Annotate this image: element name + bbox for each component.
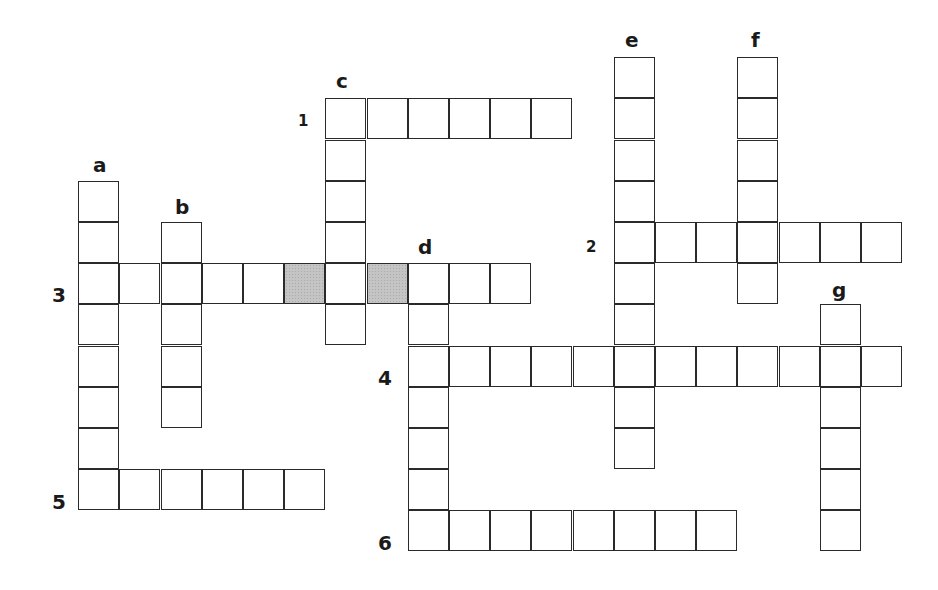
crossword-cell[interactable]	[573, 346, 614, 387]
crossword-cell[interactable]	[655, 346, 696, 387]
crossword-cell[interactable]	[820, 469, 861, 510]
down-clue-label: c	[336, 71, 348, 91]
crossword-cell[interactable]	[325, 140, 366, 181]
down-clue-label: g	[832, 280, 846, 300]
crossword-grid: 123456abcdefg	[0, 0, 938, 590]
across-clue-label: 1	[298, 114, 308, 129]
crossword-cell[interactable]	[531, 510, 572, 551]
crossword-cell[interactable]	[531, 98, 572, 139]
crossword-cell[interactable]	[284, 469, 325, 510]
crossword-cell[interactable]	[614, 140, 655, 181]
down-clue-label: b	[175, 197, 189, 217]
crossword-cell[interactable]	[614, 181, 655, 222]
crossword-cell[interactable]	[449, 98, 490, 139]
crossword-cell[interactable]	[202, 263, 243, 304]
crossword-cell[interactable]	[820, 346, 861, 387]
across-clue-label: 6	[378, 533, 392, 553]
crossword-cell[interactable]	[325, 304, 366, 345]
crossword-cell[interactable]	[449, 510, 490, 551]
crossword-cell[interactable]	[737, 263, 778, 304]
crossword-cell[interactable]	[161, 304, 202, 345]
crossword-cell[interactable]	[161, 263, 202, 304]
down-clue-label: d	[418, 237, 432, 257]
crossword-cell[interactable]	[820, 428, 861, 469]
crossword-cell[interactable]	[408, 387, 449, 428]
crossword-cell[interactable]	[449, 263, 490, 304]
shaded-cell[interactable]	[284, 263, 325, 304]
crossword-cell[interactable]	[408, 304, 449, 345]
shaded-cell[interactable]	[367, 263, 408, 304]
crossword-cell[interactable]	[737, 98, 778, 139]
crossword-cell[interactable]	[614, 222, 655, 263]
crossword-cell[interactable]	[820, 222, 861, 263]
crossword-cell[interactable]	[614, 387, 655, 428]
crossword-cell[interactable]	[408, 346, 449, 387]
crossword-cell[interactable]	[408, 98, 449, 139]
crossword-cell[interactable]	[614, 98, 655, 139]
crossword-cell[interactable]	[325, 222, 366, 263]
crossword-cell[interactable]	[861, 222, 902, 263]
crossword-cell[interactable]	[243, 469, 284, 510]
crossword-cell[interactable]	[325, 263, 366, 304]
crossword-cell[interactable]	[614, 263, 655, 304]
crossword-cell[interactable]	[119, 469, 160, 510]
crossword-cell[interactable]	[78, 428, 119, 469]
down-clue-label: f	[751, 30, 760, 50]
crossword-cell[interactable]	[696, 222, 737, 263]
across-clue-label: 3	[52, 285, 66, 305]
crossword-cell[interactable]	[490, 263, 531, 304]
crossword-cell[interactable]	[202, 469, 243, 510]
crossword-cell[interactable]	[325, 98, 366, 139]
crossword-cell[interactable]	[408, 469, 449, 510]
crossword-cell[interactable]	[820, 304, 861, 345]
across-clue-label: 5	[52, 492, 66, 512]
crossword-cell[interactable]	[614, 346, 655, 387]
crossword-cell[interactable]	[820, 387, 861, 428]
crossword-cell[interactable]	[614, 57, 655, 98]
crossword-cell[interactable]	[779, 222, 820, 263]
crossword-cell[interactable]	[161, 387, 202, 428]
crossword-cell[interactable]	[449, 346, 490, 387]
down-clue-label: e	[625, 30, 639, 50]
crossword-cell[interactable]	[737, 140, 778, 181]
crossword-cell[interactable]	[737, 346, 778, 387]
crossword-cell[interactable]	[367, 98, 408, 139]
crossword-cell[interactable]	[614, 428, 655, 469]
across-clue-label: 4	[378, 368, 392, 388]
crossword-cell[interactable]	[779, 346, 820, 387]
crossword-cell[interactable]	[78, 181, 119, 222]
crossword-cell[interactable]	[78, 222, 119, 263]
crossword-cell[interactable]	[696, 346, 737, 387]
crossword-cell[interactable]	[161, 222, 202, 263]
crossword-cell[interactable]	[78, 469, 119, 510]
crossword-cell[interactable]	[737, 181, 778, 222]
crossword-cell[interactable]	[243, 263, 284, 304]
crossword-cell[interactable]	[408, 263, 449, 304]
down-clue-label: a	[93, 155, 107, 175]
crossword-cell[interactable]	[325, 181, 366, 222]
crossword-cell[interactable]	[161, 469, 202, 510]
crossword-cell[interactable]	[119, 263, 160, 304]
crossword-cell[interactable]	[78, 346, 119, 387]
crossword-cell[interactable]	[861, 346, 902, 387]
crossword-cell[interactable]	[614, 510, 655, 551]
crossword-cell[interactable]	[655, 510, 696, 551]
crossword-cell[interactable]	[820, 510, 861, 551]
crossword-cell[interactable]	[161, 346, 202, 387]
crossword-cell[interactable]	[737, 222, 778, 263]
crossword-cell[interactable]	[78, 304, 119, 345]
crossword-cell[interactable]	[490, 98, 531, 139]
crossword-cell[interactable]	[490, 346, 531, 387]
across-clue-label: 2	[586, 240, 596, 255]
crossword-cell[interactable]	[78, 263, 119, 304]
crossword-cell[interactable]	[408, 428, 449, 469]
crossword-cell[interactable]	[573, 510, 614, 551]
crossword-cell[interactable]	[737, 57, 778, 98]
crossword-cell[interactable]	[408, 510, 449, 551]
crossword-cell[interactable]	[655, 222, 696, 263]
crossword-cell[interactable]	[614, 304, 655, 345]
crossword-cell[interactable]	[696, 510, 737, 551]
crossword-cell[interactable]	[531, 346, 572, 387]
crossword-cell[interactable]	[490, 510, 531, 551]
crossword-cell[interactable]	[78, 387, 119, 428]
